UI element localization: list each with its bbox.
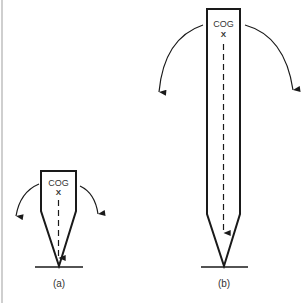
rotation-arrow-right-a bbox=[80, 186, 98, 214]
rotation-arrow-left-b bbox=[159, 25, 203, 92]
caption-b: (b) bbox=[218, 278, 230, 289]
rotation-arrow-right-b bbox=[245, 25, 293, 90]
caption-a: (a) bbox=[53, 278, 65, 289]
cog-marker-b: X bbox=[221, 30, 227, 39]
cog-marker-a: X bbox=[56, 188, 62, 197]
rotation-arrow-left-a bbox=[16, 184, 39, 216]
figure-a: COG X (a) bbox=[16, 171, 98, 289]
cog-label-b: COG bbox=[213, 19, 234, 29]
cog-diagram: COG X (a) COG X (b) bbox=[0, 0, 302, 303]
figure-b: COG X (b) bbox=[159, 9, 293, 289]
cog-label-a: COG bbox=[48, 178, 69, 188]
diagram-canvas: COG X (a) COG X (b) bbox=[0, 0, 302, 303]
